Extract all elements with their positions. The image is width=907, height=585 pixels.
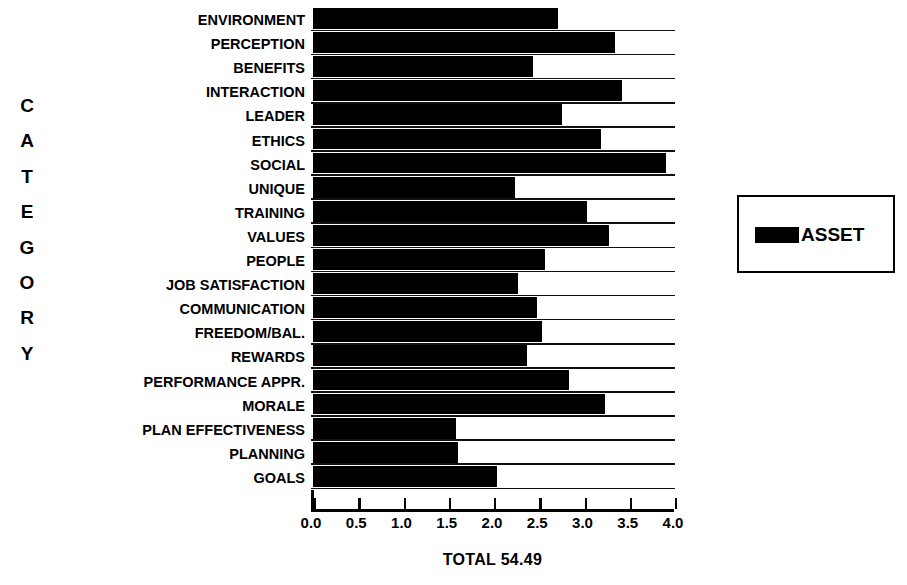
bar-row: [311, 442, 674, 466]
gridline: [311, 222, 675, 224]
legend-label-asset: ASSET: [801, 225, 864, 244]
bar-row: [311, 225, 674, 249]
y-axis-title-letter: G: [20, 230, 35, 265]
x-axis-tick: [449, 498, 451, 509]
gridline: [311, 78, 675, 80]
bar-row: [311, 129, 674, 153]
plot-area: [311, 8, 674, 490]
y-axis-title-letter: C: [20, 88, 34, 123]
x-axis-tick-label: 3.5: [617, 514, 638, 531]
bar-row: [311, 32, 674, 56]
x-axis-tick: [675, 498, 677, 509]
gridline: [311, 54, 675, 56]
category-label: REWARDS: [58, 350, 305, 365]
gridline: [311, 488, 675, 490]
x-axis-tick: [494, 498, 496, 509]
gridline: [311, 295, 675, 297]
x-axis-tick-labels: 0.00.51.01.52.02.53.03.54.0: [311, 514, 674, 534]
bar-row: [311, 8, 674, 32]
bar-row: [311, 104, 674, 128]
category-label: GOALS: [58, 471, 305, 486]
category-label: ETHICS: [58, 134, 305, 149]
y-axis-title: CATEGORY: [14, 88, 40, 371]
gridline: [311, 415, 675, 417]
bar: [313, 129, 601, 150]
x-axis-tick: [539, 498, 541, 509]
gridline: [311, 198, 675, 200]
gridline: [311, 439, 675, 441]
bar-row: [311, 177, 674, 201]
category-label: SOCIAL: [58, 158, 305, 173]
legend: ASSET: [737, 195, 895, 273]
gridline: [311, 343, 675, 345]
bar: [313, 56, 533, 77]
bar-chart: CATEGORY ENVIRONMENTPERCEPTIONBENEFITSIN…: [0, 0, 907, 585]
x-axis: [311, 490, 674, 512]
gridline: [311, 247, 675, 249]
bar: [313, 225, 609, 246]
legend-swatch-asset: [755, 227, 799, 243]
y-axis-title-letter: R: [20, 300, 34, 335]
gridline: [311, 150, 675, 152]
category-label: COMMUNICATION: [58, 302, 305, 317]
x-axis-tick-label: 1.5: [436, 514, 457, 531]
bar-row: [311, 297, 674, 321]
bar-row: [311, 80, 674, 104]
gridline: [311, 30, 675, 32]
category-label: PLANNING: [58, 447, 305, 462]
category-label: INTERACTION: [58, 85, 305, 100]
bar-row: [311, 273, 674, 297]
category-label: FREEDOM/BAL.: [58, 326, 305, 341]
bar-row: [311, 321, 674, 345]
bar: [313, 394, 605, 415]
bar: [313, 177, 515, 198]
x-axis-tick: [630, 498, 632, 509]
bar: [313, 249, 545, 270]
gridline: [311, 463, 675, 465]
category-label: PLAN EFFECTIVENESS: [58, 423, 305, 438]
y-axis-title-letter: A: [20, 123, 34, 158]
bar: [313, 321, 542, 342]
bar: [313, 8, 558, 29]
x-axis-tick: [358, 498, 360, 509]
bar-row: [311, 345, 674, 369]
bar: [313, 370, 569, 391]
bar: [313, 80, 622, 101]
y-axis-title-letter: E: [21, 194, 34, 229]
category-label: TRAINING: [58, 206, 305, 221]
gridline: [311, 271, 675, 273]
x-axis-tick-label: 2.5: [527, 514, 548, 531]
bar-row: [311, 466, 674, 490]
category-label: VALUES: [58, 230, 305, 245]
legend-entry: ASSET: [755, 225, 864, 244]
x-axis-tick-label: 1.0: [391, 514, 412, 531]
bar-row: [311, 418, 674, 442]
gridline: [311, 126, 675, 128]
total-caption: TOTAL 54.49: [311, 551, 674, 569]
bar-row: [311, 370, 674, 394]
x-axis-tick: [404, 498, 406, 509]
x-axis-tick-label: 2.0: [482, 514, 503, 531]
category-label: PERCEPTION: [58, 37, 305, 52]
x-axis-tick-label: 0.0: [301, 514, 322, 531]
x-axis-tick-label: 0.5: [346, 514, 367, 531]
category-label: JOB SATISFACTION: [58, 278, 305, 293]
y-axis-title-letter: T: [21, 159, 33, 194]
bar: [313, 104, 562, 125]
category-label: MORALE: [58, 399, 305, 414]
gridline: [311, 102, 675, 104]
y-axis-title-letter: Y: [21, 336, 34, 371]
category-label: PEOPLE: [58, 254, 305, 269]
bar-row: [311, 56, 674, 80]
bar: [313, 418, 456, 439]
category-label: UNIQUE: [58, 182, 305, 197]
bar: [313, 442, 458, 463]
bar: [313, 297, 537, 318]
bar: [313, 153, 666, 174]
y-axis-title-letter: O: [20, 265, 35, 300]
bar: [313, 201, 587, 222]
bar-row: [311, 249, 674, 273]
x-axis-tick-label: 3.0: [572, 514, 593, 531]
bar-row: [311, 394, 674, 418]
category-label: BENEFITS: [58, 61, 305, 76]
